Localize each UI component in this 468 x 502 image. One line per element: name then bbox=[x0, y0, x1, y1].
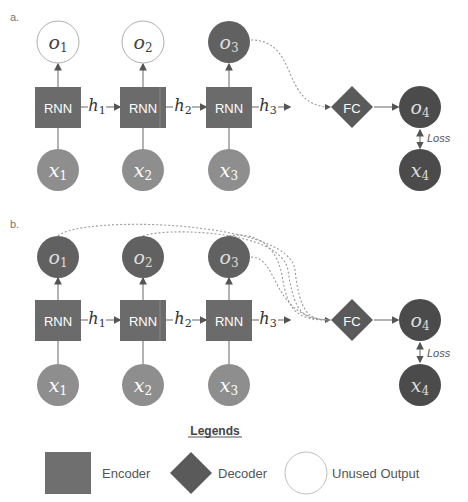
panel-b-rnn-2-label: RNN bbox=[129, 315, 157, 328]
panel-a-h3-label: h3 bbox=[259, 98, 276, 116]
panel-b-loss-label: Loss bbox=[427, 348, 450, 359]
panel-a-h1-label: h1 bbox=[88, 98, 105, 116]
panel-a-o2-label: o2 bbox=[133, 33, 152, 54]
panel-a-x1-label: x1 bbox=[49, 161, 67, 182]
panel-b-x3-label: x3 bbox=[220, 376, 238, 397]
panel-b-skip-edges bbox=[58, 224, 330, 320]
legend-encoder-label: Encoder bbox=[102, 467, 150, 480]
panel-b-o4-label: o4 bbox=[410, 311, 429, 332]
panel-a-fc-label: FC bbox=[343, 102, 360, 115]
panel-a-h2-label: h2 bbox=[174, 98, 191, 116]
panel-a-rnn-1-label: RNN bbox=[44, 102, 72, 115]
legend-decoder-label: Decoder bbox=[218, 467, 267, 480]
legend-title: Legends bbox=[190, 425, 239, 437]
legend-unused-output-label: Unused Output bbox=[332, 467, 419, 480]
panel-b-x1-label: x1 bbox=[49, 376, 67, 397]
legend-encoder-swatch bbox=[45, 452, 91, 494]
legend-decoder-swatch bbox=[170, 452, 212, 494]
panel-b-label: b. bbox=[10, 218, 19, 230]
panel-a-o1-label: o1 bbox=[48, 33, 67, 54]
legend-unused-output-swatch bbox=[285, 452, 327, 494]
panel-b-h1-label: h1 bbox=[88, 311, 105, 329]
legend bbox=[45, 437, 327, 494]
panel-b-x2-label: x2 bbox=[134, 376, 152, 397]
panel-b-o1-label: o1 bbox=[48, 248, 67, 269]
panel-a-x4-label: x4 bbox=[411, 161, 429, 182]
panel-a-loss-label: Loss bbox=[427, 133, 450, 144]
panel-b-rnn-1-label: RNN bbox=[44, 315, 72, 328]
panel-a-rnn-2-label: RNN bbox=[129, 102, 157, 115]
panel-a-x2-label: x2 bbox=[134, 161, 152, 182]
panel-a-o4-label: o4 bbox=[410, 98, 429, 119]
panel-a-label: a. bbox=[10, 11, 19, 23]
panel-a-o3-label: o3 bbox=[219, 33, 238, 54]
panel-b-h3-label: h3 bbox=[259, 311, 276, 329]
panel-b-h2-label: h2 bbox=[174, 311, 191, 329]
panel-b-o3-label: o3 bbox=[219, 248, 238, 269]
panel-a-x3-label: x3 bbox=[220, 161, 238, 182]
panel-a-rnn-3-label: RNN bbox=[215, 102, 243, 115]
panel-b-fc-label: FC bbox=[343, 315, 360, 328]
panel-b-rnn-3-label: RNN bbox=[215, 315, 243, 328]
panel-b-x4-label: x4 bbox=[411, 376, 429, 397]
panel-b-o2-label: o2 bbox=[133, 248, 152, 269]
